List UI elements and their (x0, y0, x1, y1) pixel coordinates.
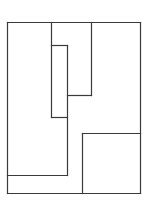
partition-diagram (0, 0, 149, 209)
diagram-canvas (0, 0, 149, 209)
